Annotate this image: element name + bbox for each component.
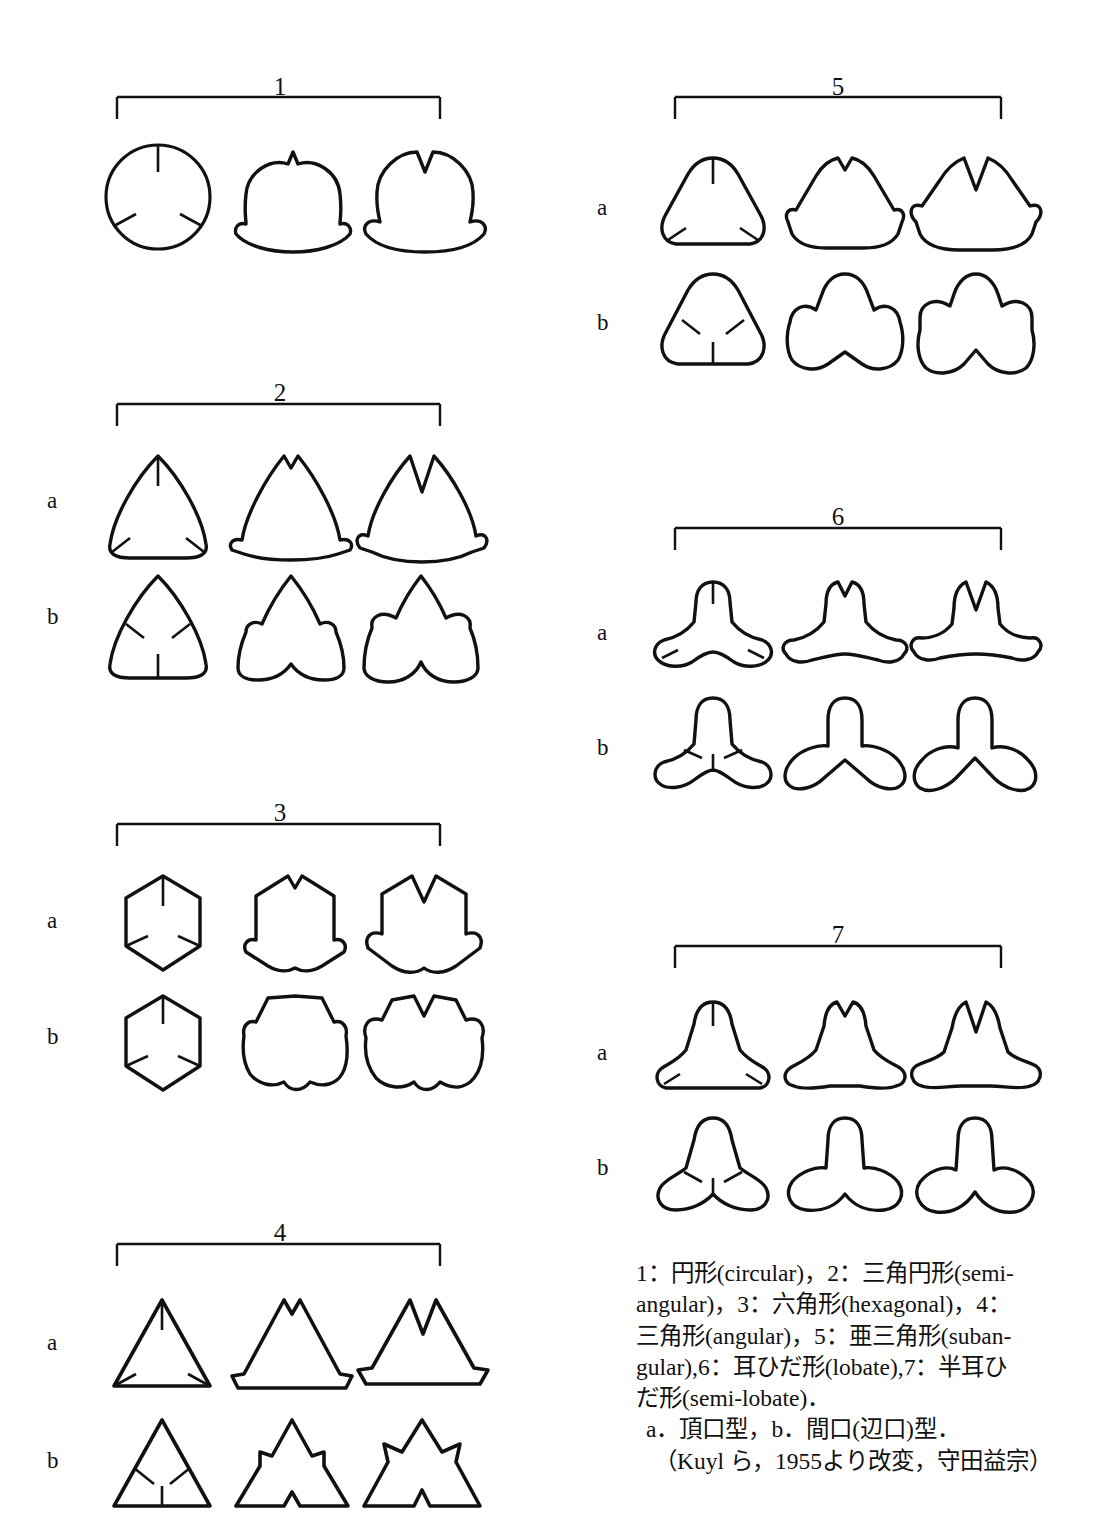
group-bracket-7 <box>0 0 1103 980</box>
shape-4a-v1 <box>100 1292 224 1402</box>
figure-caption: 1：円形(circular)，2：三角円形(semi- angular)，3：六… <box>636 1258 1098 1477</box>
row-label-4-a: a <box>47 1330 57 1356</box>
caption-line-2: angular)，3：六角形(hexagonal)，4： <box>636 1289 1098 1320</box>
shape-7b-v2 <box>782 1114 908 1220</box>
shape-4b-v2 <box>228 1412 356 1524</box>
shape-4a-v2 <box>228 1292 356 1404</box>
shape-7a-v2 <box>782 998 908 1100</box>
row-label-7-a: a <box>597 1040 607 1066</box>
caption-line-3: 三角形(angular)，5：亜三角形(suban- <box>636 1321 1098 1352</box>
caption-line-1: 1：円形(circular)，2：三角円形(semi- <box>636 1258 1098 1289</box>
shape-7a-v3 <box>912 998 1040 1102</box>
shape-4b-v3 <box>358 1412 486 1524</box>
caption-line-5: だ形(semi-lobate)． <box>636 1383 1098 1414</box>
shape-7b-v3 <box>912 1114 1038 1220</box>
shape-7b-v1 <box>652 1114 774 1218</box>
caption-attribution: （Kuyl ら，1955より改変，守田益宗） <box>636 1446 1098 1477</box>
row-label-4-b: b <box>47 1448 59 1474</box>
shape-7a-v1 <box>652 998 774 1098</box>
row-label-7-b: b <box>597 1155 609 1181</box>
caption-line-4: gular),6：耳ひだ形(lobate),7：半耳ひ <box>636 1352 1098 1383</box>
caption-line-6: a．頂口型，b．間口(辺口)型． <box>636 1414 1098 1445</box>
shape-4a-v3 <box>358 1292 488 1406</box>
shape-4b-v1 <box>100 1412 224 1524</box>
